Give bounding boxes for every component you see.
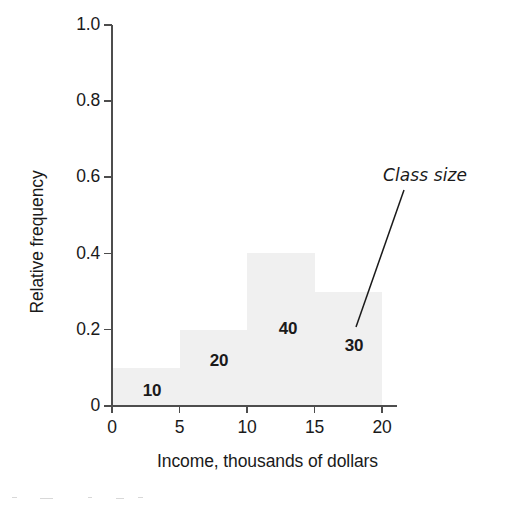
histogram-figure: 10 20 40 30 0 0.2 0.4 0.6 0.8 1.0 — [0, 0, 511, 505]
x-tick-label-15: 15 — [292, 418, 338, 436]
x-axis-line — [111, 405, 397, 407]
x-tick-label-0: 0 — [89, 418, 135, 436]
y-tick-label-1.0: 1.0 — [56, 16, 100, 34]
y-tick-label-0.8: 0.8 — [56, 92, 100, 110]
y-tick-label-0: 0 — [56, 397, 100, 415]
x-tick-15 — [314, 405, 316, 413]
x-tick-label-20: 20 — [359, 418, 405, 436]
y-tick-0.6 — [104, 176, 112, 178]
bar-label-2: 40 — [268, 320, 308, 337]
annotation-class-size: Class size — [383, 165, 467, 185]
bar-label-3: 30 — [334, 337, 374, 354]
x-tick-5 — [179, 405, 181, 413]
y-tick-label-0.2: 0.2 — [56, 321, 100, 339]
x-axis-title: Income, thousands of dollars — [0, 451, 511, 472]
y-tick-0.8 — [104, 100, 112, 102]
y-tick-0.4 — [104, 253, 112, 255]
x-tick-label-5: 5 — [157, 418, 203, 436]
y-axis-title: Relative frequency — [27, 112, 47, 372]
bar-label-0: 10 — [132, 382, 172, 399]
x-tick-20 — [381, 405, 383, 413]
y-axis-line — [111, 25, 113, 407]
y-tick-label-0.6: 0.6 — [56, 168, 100, 186]
bar-label-1: 20 — [199, 352, 239, 369]
y-tick-label-0.4: 0.4 — [56, 245, 100, 263]
x-tick-0 — [111, 405, 113, 413]
x-tick-label-10: 10 — [224, 418, 270, 436]
x-tick-10 — [246, 405, 248, 413]
y-tick-0.2 — [104, 329, 112, 331]
y-tick-1.0 — [104, 24, 112, 26]
